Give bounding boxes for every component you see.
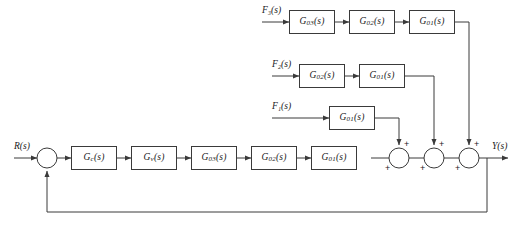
block-process-3-label: G03(s) xyxy=(201,152,226,163)
block-process-3[interactable]: G03(s) xyxy=(191,146,237,170)
block-ff2-g02-label: G02(s) xyxy=(309,70,334,81)
signal-label-output: Y(s) xyxy=(492,141,507,151)
signal-label-disturbance-2: F₂(s) xyxy=(272,59,291,69)
block-valve-label: Gv(s) xyxy=(144,152,165,163)
summer-2-sign-top: + xyxy=(439,139,444,149)
block-ff2-g01[interactable]: G01(s) xyxy=(359,64,405,88)
block-controller[interactable]: Gc(s) xyxy=(71,146,117,170)
signal-label-reference: R(s) xyxy=(14,141,30,151)
block-ff1-g01[interactable]: G01(s) xyxy=(329,106,375,130)
diagram-lines xyxy=(0,0,526,243)
block-ff3-g01[interactable]: G01(s) xyxy=(409,10,455,34)
block-controller-label: Gc(s) xyxy=(84,152,105,163)
summer-1-sign-left: + xyxy=(385,163,390,173)
signal-label-disturbance-3: F₃(s) xyxy=(262,5,281,15)
summer-2-sign-left: + xyxy=(420,163,425,173)
block-ff3-g02[interactable]: G02(s) xyxy=(349,10,395,34)
block-ff3-g02-label: G02(s) xyxy=(359,16,384,27)
block-ff3-g01-label: G01(s) xyxy=(419,16,444,27)
block-process-2[interactable]: G02(s) xyxy=(251,146,297,170)
block-diagram: R(s) Y(s) F₁(s) F₂(s) F₃(s) Gc(s) Gv(s) … xyxy=(0,0,526,243)
block-ff2-g01-label: G01(s) xyxy=(369,70,394,81)
block-valve[interactable]: Gv(s) xyxy=(131,146,177,170)
summer-3-sign-top: + xyxy=(474,139,479,149)
signal-label-disturbance-1: F₁(s) xyxy=(272,101,291,111)
summer-1-sign-top: + xyxy=(404,139,409,149)
summer-3-sign-left: + xyxy=(455,163,460,173)
block-process-1[interactable]: G01(s) xyxy=(311,146,357,170)
block-ff2-g02[interactable]: G02(s) xyxy=(299,64,345,88)
block-ff3-g03[interactable]: G03(s) xyxy=(289,10,335,34)
block-ff3-g03-label: G03(s) xyxy=(299,16,324,27)
block-ff1-g01-label: G01(s) xyxy=(339,112,364,123)
block-process-1-label: G01(s) xyxy=(321,152,346,163)
block-process-2-label: G02(s) xyxy=(261,152,286,163)
